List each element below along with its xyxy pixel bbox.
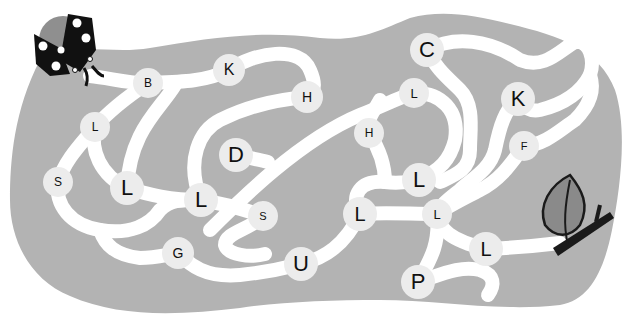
maze-node[interactable]: L [184,183,218,217]
maze-node[interactable]: L [399,78,429,108]
maze-node[interactable]: H [354,118,384,148]
maze-node[interactable]: U [284,247,318,281]
maze-node[interactable]: L [80,112,110,142]
maze-puzzle: B K H L C L K H D F S L L L S L L G L U … [0,0,630,323]
maze-node[interactable]: K [501,82,535,116]
maze-node[interactable]: L [343,197,377,231]
maze-node[interactable]: H [291,81,323,113]
maze-node[interactable]: S [248,201,278,231]
maze-node[interactable]: B [133,68,163,98]
maze-node[interactable]: S [43,167,73,197]
maze-node[interactable]: F [509,131,539,161]
maze-node[interactable]: L [469,232,503,266]
maze-node[interactable]: L [402,163,436,197]
maze-node[interactable]: P [401,265,435,299]
maze-node[interactable]: D [219,138,253,172]
maze-node[interactable]: G [162,237,194,269]
maze-node[interactable]: K [213,54,245,86]
maze-node[interactable]: L [422,199,452,229]
maze-board [0,0,630,323]
maze-node[interactable]: C [410,33,444,67]
maze-node[interactable]: L [110,171,144,205]
